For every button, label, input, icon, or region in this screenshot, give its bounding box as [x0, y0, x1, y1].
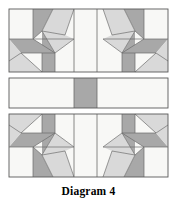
center-column-top [74, 9, 97, 72]
sash-center-dark [74, 78, 97, 108]
band-middle [9, 78, 168, 108]
band-bottom [9, 114, 168, 177]
sash-left [9, 78, 74, 108]
diagram-page: .p-white { fill: #f8f8f6; } .p-light { f… [0, 0, 177, 206]
center-column-bottom [74, 114, 97, 177]
figure-caption: Diagram 4 [0, 185, 177, 197]
band-top [9, 9, 168, 72]
sash-right [97, 78, 168, 108]
quilt-diagram: .p-white { fill: #f8f8f6; } .p-light { f… [0, 0, 177, 206]
